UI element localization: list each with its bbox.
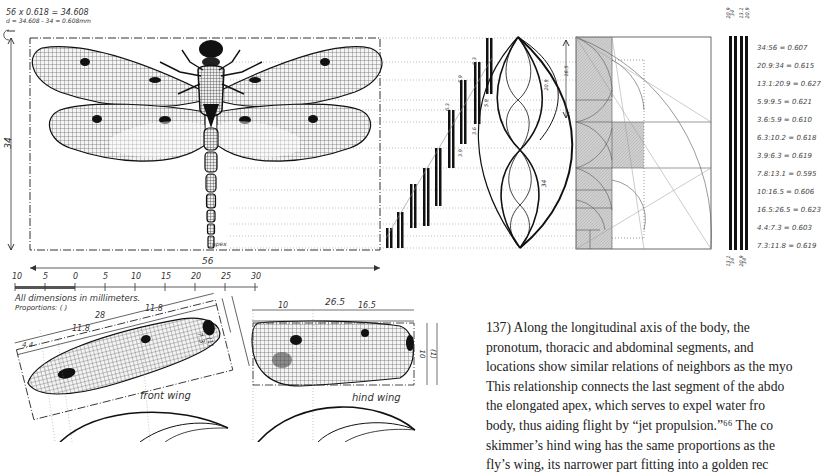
- caption-line: locations show similar relations of neig…: [486, 357, 816, 377]
- scale-tick: 25: [221, 272, 231, 281]
- caption-line: skimmer’s hind wing has the same proport…: [486, 436, 816, 456]
- grid-top-label: 34: [729, 10, 735, 16]
- caption-line: 137) Along the longitudinal axis of the …: [486, 318, 816, 338]
- scale-tick: 5: [43, 272, 48, 281]
- bar-label: 3.6: [471, 127, 477, 135]
- hind-wing-dim-ratio: (1): [429, 349, 437, 359]
- ratio-item: 3.9:6.3 = 0.619: [757, 152, 812, 160]
- bar-label: 5.9: [483, 99, 489, 107]
- grid-bottom-label: 34: [729, 258, 735, 264]
- ratio-item: 10:16.5 = 0.606: [757, 188, 814, 196]
- spiral-label: 34: [540, 180, 547, 188]
- spiral-label: 16.5: [563, 65, 569, 76]
- grid-top-label: 20.9: [744, 7, 750, 18]
- height-label: 34: [3, 137, 13, 148]
- scale-tick: 5: [103, 272, 108, 281]
- spiral-label: 20.9: [543, 79, 549, 90]
- ratio-item: 4.4:7.3 = 0.603: [757, 224, 812, 232]
- scale-tick: 20: [191, 272, 201, 281]
- front-wing-dim-4-4: 4.4: [22, 341, 33, 349]
- scale-tick: 30: [251, 272, 261, 281]
- bar-label: 3.9: [457, 149, 463, 157]
- apex-label: apex: [212, 240, 227, 247]
- hind-wing-dim-26-5: 26.5: [325, 297, 345, 307]
- bar-label: 6.3: [444, 103, 450, 111]
- caption-line: the elongated apex, which serves to expe…: [486, 396, 816, 416]
- bar-label: 6.3: [471, 57, 477, 65]
- hind-wing-dim-10: 10: [278, 301, 288, 310]
- ratio-item: 3.6:5.9 = 0.610: [757, 116, 812, 124]
- scale-tick: 0: [73, 272, 78, 281]
- caption-line: This relationship connects the last segm…: [486, 377, 816, 397]
- caption-paragraph: 137) Along the longitudinal axis of the …: [486, 318, 816, 475]
- grid-bottom-label: 34: [741, 258, 747, 264]
- scale-tick: 15: [161, 272, 171, 281]
- front-wing-dim-11-8a: 11.8: [145, 304, 163, 313]
- ratio-item: 16.5:26.5 = 0.623: [757, 206, 821, 214]
- ratio-item: 7.3:11.8 = 0.619: [757, 242, 816, 250]
- caption-line: body, thus aiding flight by “jet propuls…: [486, 416, 816, 436]
- hind-wing-dim-16-5: 16.5: [358, 301, 376, 310]
- ratio-item: 6.3:10.2 = 0.618: [757, 134, 816, 142]
- ratio-item: 20.9:34 = 0.615: [757, 62, 814, 70]
- ratio-item: 5.9:9.5 = 0.621: [757, 98, 812, 106]
- ratio-item: 13.1:20.9 = 0.627: [757, 80, 821, 88]
- calc-note-1: 56 x 0.618 = 34.608: [6, 8, 89, 17]
- caption-line: fly’s wing, its narrower part fitting in…: [486, 455, 816, 475]
- front-wing-dim-11-8b: 11.8: [72, 324, 90, 333]
- proportions-note: Proportions: ( ): [15, 304, 67, 312]
- ratio-item: 34:56 = 0.607: [757, 44, 808, 52]
- scale-tick: 10: [131, 272, 141, 281]
- width-label: 56: [202, 256, 213, 266]
- units-note: All dimensions in millimeters.: [15, 293, 140, 303]
- ratio-item: 7.8:13.1 = 0.595: [757, 170, 816, 178]
- scale-tick: 10: [12, 272, 22, 281]
- front-wing-dim-28: 28: [95, 311, 105, 320]
- front-wing-label: front wing: [140, 390, 191, 401]
- caption-line: pronotum, thoracic and abdominal segment…: [486, 338, 816, 358]
- calc-note-2: d = 34.608 - 34 = 0.608mm: [6, 17, 91, 24]
- hind-wing-label: hind wing: [352, 392, 401, 403]
- bar-label: 5.9: [457, 75, 463, 83]
- hind-wing-dim-height: 10: [418, 350, 426, 359]
